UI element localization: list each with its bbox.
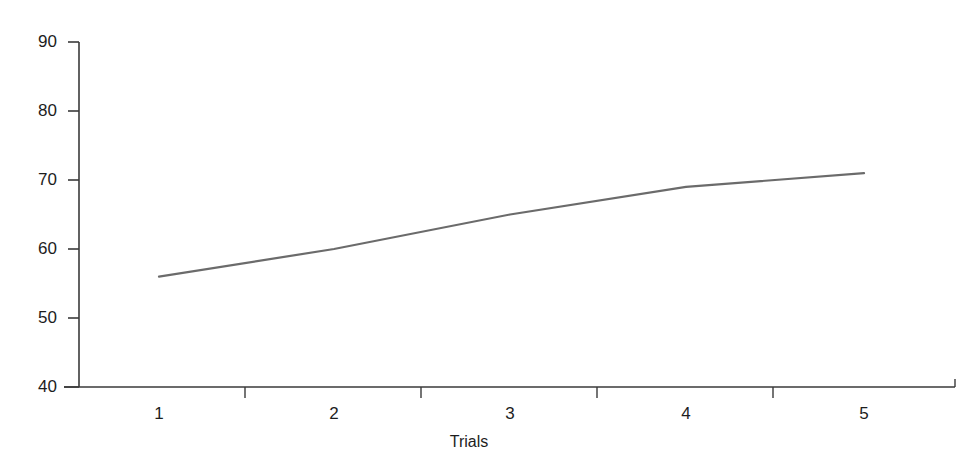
x-tick-label-2: 2	[329, 404, 338, 423]
x-tick-label-4: 4	[681, 404, 690, 423]
y-tick-label-80: 80	[38, 101, 57, 120]
y-tick-label-70: 70	[38, 170, 57, 189]
x-tick-label-5: 5	[859, 404, 868, 423]
line-chart: 90 80 70 60 50 40 1 2 3 4 5 Trials	[0, 0, 977, 466]
y-tick-label-40: 40	[38, 377, 57, 396]
y-tick-label-90: 90	[38, 32, 57, 51]
x-axis-title: Trials	[450, 433, 489, 450]
y-tick-label-60: 60	[38, 239, 57, 258]
y-tick-label-50: 50	[38, 308, 57, 327]
x-tick-label-3: 3	[505, 404, 514, 423]
chart-page: 90 80 70 60 50 40 1 2 3 4 5 Trials	[0, 0, 977, 466]
chart-background	[0, 0, 977, 466]
x-tick-label-1: 1	[154, 404, 163, 423]
